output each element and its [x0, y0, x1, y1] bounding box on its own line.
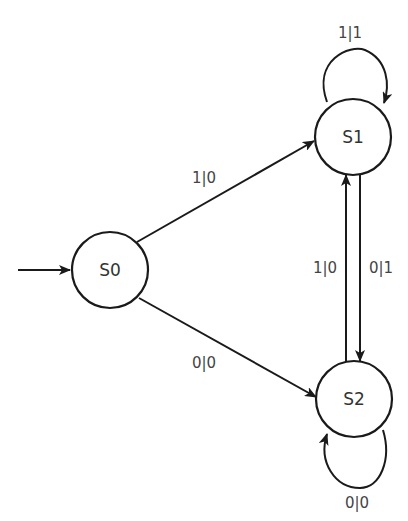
transition-label-s1-self: 1|1 — [338, 24, 362, 42]
transition-label-s0-s2: 0|0 — [192, 354, 216, 372]
transition-s1-s2: 0|1 — [360, 175, 393, 361]
transition-label-s1-s2: 0|1 — [369, 259, 393, 277]
state-label-s0: S0 — [99, 260, 121, 280]
transition-s0-s1: 1|0 — [137, 141, 314, 242]
transition-label-s2-self: 0|0 — [345, 494, 369, 512]
state-s1: S1 — [315, 99, 391, 175]
state-s2: S2 — [316, 361, 392, 437]
transition-label-s0-s1: 1|0 — [192, 169, 216, 187]
state-label-s1: S1 — [342, 127, 364, 147]
self-loop-s2 — [325, 430, 386, 488]
state-diagram: 1|0 0|0 1|1 0|1 1|0 0|0 S0 — [0, 0, 408, 521]
transition-s0-s2: 0|0 — [139, 298, 316, 397]
transition-s1-self: 1|1 — [324, 24, 387, 103]
state-label-s2: S2 — [343, 389, 365, 409]
arrow-s0-to-s2 — [139, 298, 316, 397]
transition-label-s2-s1: 1|0 — [313, 259, 337, 277]
self-loop-s1 — [324, 49, 387, 103]
transition-s2-self: 0|0 — [325, 430, 386, 512]
state-s0: S0 — [72, 232, 148, 308]
transition-s2-s1: 1|0 — [313, 175, 346, 361]
arrow-s0-to-s1 — [137, 141, 314, 242]
